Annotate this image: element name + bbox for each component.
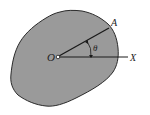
label-axis-x: X (129, 52, 137, 63)
label-origin: O (47, 51, 55, 63)
rigid-body-diagram: O A X θ (0, 0, 150, 115)
rigid-body-shape (11, 10, 119, 106)
label-point-a: A (110, 17, 118, 28)
label-angle-theta: θ (93, 43, 98, 53)
pivot-icon (56, 55, 60, 59)
